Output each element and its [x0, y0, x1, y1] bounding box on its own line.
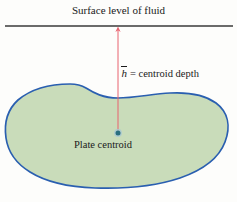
depth-equation-text: = centroid depth	[130, 69, 199, 80]
hydrostatic-plate-diagram: Surface level of fluid h = centroid dept…	[0, 0, 237, 202]
diagram-canvas	[0, 0, 237, 202]
centroid-dot	[116, 131, 121, 136]
h-bar-symbol: h	[121, 68, 128, 79]
surface-level-label: Surface level of fluid	[0, 5, 237, 16]
centroid-depth-label: h = centroid depth	[121, 68, 199, 80]
plate-centroid-label: Plate centroid	[74, 140, 132, 151]
